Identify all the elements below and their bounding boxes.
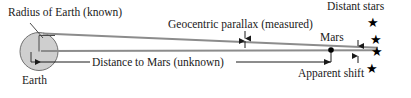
label-mars: Mars (320, 32, 344, 44)
label-distance-to-mars: Distance to Mars (unknown) (92, 57, 224, 69)
label-apparent-shift: Apparent shift (298, 68, 364, 80)
star-icon: ★ (366, 62, 378, 75)
mars-dot-icon (328, 47, 334, 53)
star-icon: ★ (367, 16, 379, 29)
label-earth: Earth (22, 75, 47, 87)
star-icon: ★ (371, 45, 383, 58)
label-geocentric-parallax: Geocentric parallax (measured) (168, 19, 313, 31)
parallax-diagram: Radius of Earth (known) Geocentric paral… (0, 0, 411, 98)
sight-line-from-earth-center (41, 50, 378, 51)
label-radius-of-earth: Radius of Earth (known) (8, 7, 122, 19)
label-distant-stars: Distant stars (327, 1, 384, 13)
